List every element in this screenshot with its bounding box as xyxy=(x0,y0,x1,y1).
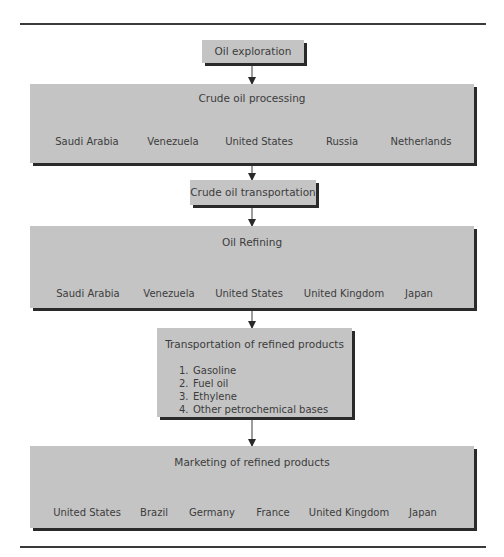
country-united-states: United States xyxy=(215,288,283,299)
country-saudi-arabia: Saudi Arabia xyxy=(55,136,118,147)
stage-title: Marketing of refined products xyxy=(30,456,474,468)
country-netherlands: Netherlands xyxy=(391,136,452,147)
stage-title: Crude oil transportation xyxy=(190,186,316,198)
country-venezuela: Venezuela xyxy=(143,288,194,299)
stage-title: Transportation of refined products xyxy=(157,338,352,350)
country-united-states: United States xyxy=(53,507,121,518)
list-item: 3.Ethylene xyxy=(179,390,328,403)
country-germany: Germany xyxy=(189,507,235,518)
country-united-kingdom: United Kingdom xyxy=(304,288,384,299)
stage-crude-oil-processing: Crude oil processing xyxy=(30,84,474,163)
country-brazil: Brazil xyxy=(140,507,168,518)
country-united-kingdom: United Kingdom xyxy=(309,507,389,518)
country-united-states: United States xyxy=(225,136,293,147)
stage-crude-oil-transportation: Crude oil transportation xyxy=(190,180,316,205)
country-france: France xyxy=(256,507,289,518)
country-russia: Russia xyxy=(326,136,358,147)
country-japan: Japan xyxy=(409,507,437,518)
list-item: 2.Fuel oil xyxy=(179,377,328,390)
list-item: 1.Gasoline xyxy=(179,364,328,377)
country-saudi-arabia: Saudi Arabia xyxy=(56,288,119,299)
list-item: 4.Other petrochemical bases xyxy=(179,403,328,416)
country-venezuela: Venezuela xyxy=(147,136,198,147)
stage-title: Oil Refining xyxy=(30,236,474,248)
stage-title: Oil exploration xyxy=(202,45,304,57)
stage-oil-exploration: Oil exploration xyxy=(202,40,304,63)
refined-products-list: 1.Gasoline 2.Fuel oil 3.Ethylene 4.Other… xyxy=(179,364,328,416)
stage-title: Crude oil processing xyxy=(30,92,474,104)
stage-transportation-of-refined-products: Transportation of refined products 1.Gas… xyxy=(157,328,352,417)
country-japan: Japan xyxy=(405,288,433,299)
